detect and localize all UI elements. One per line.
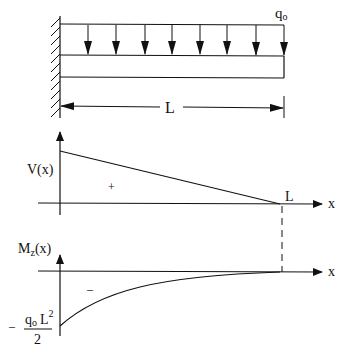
moment-ylabel: Mz(x) bbox=[18, 241, 52, 258]
svg-text:–: – bbox=[8, 319, 16, 333]
svg-text:qoL2: qoL2 bbox=[25, 308, 54, 328]
shear-end-label: L bbox=[285, 189, 294, 204]
load-label: qo bbox=[275, 5, 288, 22]
beam bbox=[60, 55, 284, 78]
length-label: L bbox=[165, 99, 175, 116]
load-arrows bbox=[88, 25, 284, 55]
moment-sign: – bbox=[86, 282, 94, 296]
length-dimension: L bbox=[61, 96, 284, 118]
shear-sign: + bbox=[108, 180, 115, 194]
fixed-wall-support bbox=[51, 16, 60, 118]
moment-diagram: Mz(x) – x – qoL2 2 bbox=[8, 241, 335, 347]
shear-xlabel: x bbox=[328, 196, 335, 211]
distributed-load: qo bbox=[60, 5, 288, 55]
moment-xlabel: x bbox=[328, 264, 335, 279]
shear-ylabel: V(x) bbox=[27, 162, 54, 178]
moment-min-label: – qoL2 2 bbox=[8, 308, 54, 347]
svg-text:2: 2 bbox=[34, 332, 41, 347]
shear-diagram: V(x) + L x bbox=[27, 132, 335, 215]
cantilever-beam-diagram: qo L V(x) + L x Mz(x) – x – qoL2 bbox=[0, 0, 346, 353]
